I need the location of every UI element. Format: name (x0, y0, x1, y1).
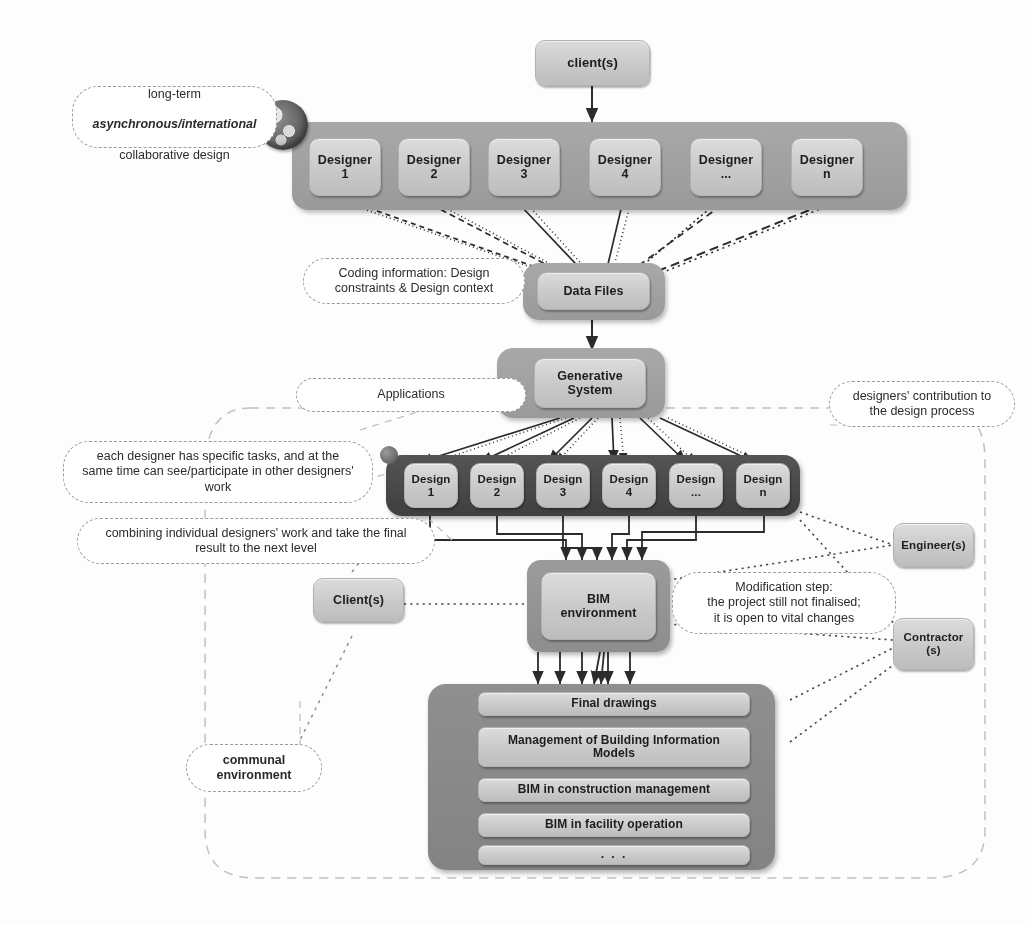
designer-cell-4[interactable]: Designer4 (589, 138, 661, 196)
output-row-bim-management[interactable]: Management of Building Information Model… (478, 727, 750, 767)
callout-communal-environment: communal environment (186, 744, 322, 792)
design-cell-1-label: Design1 (412, 473, 451, 499)
design-cell-3-label: Design3 (544, 473, 583, 499)
design-band-notch-icon (380, 446, 398, 464)
designer-cell-4-label: Designer4 (598, 153, 652, 181)
design-cell-6-label: Designn (744, 473, 783, 499)
callout-communal-label: communal environment (216, 753, 291, 784)
callout-tasks-label: each designer has specific tasks, and at… (82, 449, 353, 495)
client-node[interactable]: client(s) (535, 40, 650, 86)
output-row-3-label: BIM in construction management (518, 783, 710, 796)
design-cell-4[interactable]: Design4 (602, 463, 656, 508)
design-cell-5-label: Design... (677, 473, 716, 499)
callout-combining-label: combining individual designers' work and… (105, 526, 406, 557)
diagram-canvas: client(s) Designer1 Designer2 Designer3 … (0, 0, 1031, 925)
designer-cell-6-label: Designern (800, 153, 854, 181)
bim-environment-label: BIMenvironment (560, 592, 636, 620)
callout-applications-label: Applications (377, 387, 444, 402)
data-files-node[interactable]: Data Files (537, 272, 650, 310)
output-row-facility-operation[interactable]: BIM in facility operation (478, 813, 750, 837)
data-files-label: Data Files (563, 284, 623, 298)
callout-designers-contribution: designers' contribution to the design pr… (829, 381, 1015, 427)
client-node-label: client(s) (567, 56, 618, 71)
design-cell-1[interactable]: Design1 (404, 463, 458, 508)
designer-cell-2[interactable]: Designer2 (398, 138, 470, 196)
callout-designer-tasks: each designer has specific tasks, and at… (63, 441, 373, 503)
callout-combining-work: combining individual designers' work and… (77, 518, 435, 564)
output-row-final-drawings[interactable]: Final drawings (478, 692, 750, 716)
output-row-more[interactable]: . . . (478, 845, 750, 865)
output-row-construction-management[interactable]: BIM in construction management (478, 778, 750, 802)
output-row-5-label: . . . (601, 848, 628, 861)
bim-environment-node[interactable]: BIMenvironment (541, 572, 656, 640)
engineer-actor-label: Engineer(s) (901, 539, 965, 552)
output-row-2-label: Management of Building Information Model… (508, 734, 720, 761)
designer-cell-1-label: Designer1 (318, 153, 372, 181)
callout-long-term-label: long-term asynchronous/international col… (93, 71, 257, 163)
designer-cell-5-label: Designer... (699, 153, 753, 181)
generative-system-label: GenerativeSystem (557, 369, 623, 397)
design-cell-2[interactable]: Design2 (470, 463, 524, 508)
output-row-4-label: BIM in facility operation (545, 818, 683, 831)
contractor-actor-label: Contractor(s) (904, 631, 964, 657)
designer-cell-3-label: Designer3 (497, 153, 551, 181)
callout-applications: Applications (296, 378, 526, 412)
design-cell-4-label: Design4 (610, 473, 649, 499)
callout-modification-step: Modification step: the project still not… (672, 572, 896, 634)
client-actor-label: Client(s) (333, 593, 384, 607)
designer-cell-1[interactable]: Designer1 (309, 138, 381, 196)
contractor-actor-node[interactable]: Contractor(s) (893, 618, 974, 670)
designer-cell-5[interactable]: Designer... (690, 138, 762, 196)
client-actor-node[interactable]: Client(s) (313, 578, 404, 622)
callout-coding-label: Coding information: Design constraints &… (335, 266, 493, 297)
callout-long-term: long-term asynchronous/international col… (72, 86, 277, 148)
engineer-actor-node[interactable]: Engineer(s) (893, 523, 974, 567)
generative-system-node[interactable]: GenerativeSystem (534, 358, 646, 408)
design-cell-3[interactable]: Design3 (536, 463, 590, 508)
design-cell-6[interactable]: Designn (736, 463, 790, 508)
designer-cell-6[interactable]: Designern (791, 138, 863, 196)
designer-cell-3[interactable]: Designer3 (488, 138, 560, 196)
design-cell-5[interactable]: Design... (669, 463, 723, 508)
designer-cell-2-label: Designer2 (407, 153, 461, 181)
callout-contribution-label: designers' contribution to the design pr… (853, 389, 992, 420)
design-cell-2-label: Design2 (478, 473, 517, 499)
callout-coding-information: Coding information: Design constraints &… (303, 258, 525, 304)
output-row-1-label: Final drawings (571, 697, 656, 710)
callout-modification-label: Modification step: the project still not… (707, 580, 861, 626)
